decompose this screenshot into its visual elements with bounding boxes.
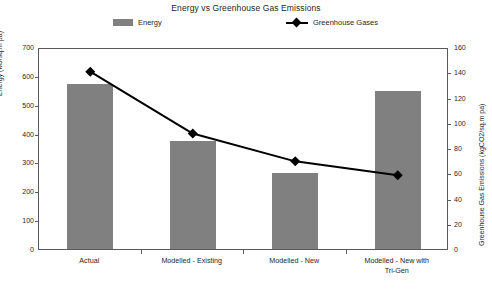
y-axis-right-tick-label: 40: [454, 196, 480, 203]
line-data-point-marker: [393, 170, 403, 180]
category-label-line: Actual: [38, 256, 141, 266]
legend-bar-swatch-icon: [113, 19, 133, 26]
line-data-point-marker: [188, 129, 198, 139]
category-label-line: Modelled - New: [243, 256, 346, 266]
y-axis-right-tick-label: 80: [454, 145, 480, 152]
y-axis-left-tick-label: 600: [8, 73, 34, 80]
x-axis-category-label: Modelled - Existing: [141, 256, 244, 266]
y-axis-left-tick-label: 300: [8, 159, 34, 166]
chart-legend: Energy Greenhouse Gases: [0, 18, 492, 30]
y-axis-right-tick-label: 20: [454, 221, 480, 228]
chart-container: Energy vs Greenhouse Gas Emissions Energ…: [0, 0, 492, 290]
category-label-line: Modelled - Existing: [141, 256, 244, 266]
legend-item-greenhouse-gases: Greenhouse Gases: [286, 18, 378, 27]
y-axis-right-tick-label: 0: [454, 246, 480, 253]
chart-title: Energy vs Greenhouse Gas Emissions: [0, 3, 492, 13]
line-data-point-marker: [290, 156, 300, 166]
x-axis-category-label: Modelled - New: [243, 256, 346, 266]
y-axis-left-tick-label: 0: [8, 246, 34, 253]
y-axis-left-tick-label: 500: [8, 102, 34, 109]
category-label-line: Tri-Gen: [346, 266, 449, 276]
legend-label-energy: Energy: [138, 18, 162, 27]
legend-line-marker-icon: [286, 18, 308, 27]
y-axis-right-tick-label: 160: [454, 44, 480, 51]
y-axis-right-tick-label: 100: [454, 120, 480, 127]
line-data-point-marker: [85, 67, 95, 77]
y-axis-left-tick-label: 400: [8, 131, 34, 138]
x-axis-category-label: Actual: [38, 256, 141, 266]
y-axis-left-title: Energy (MJ/sq.m pa): [0, 31, 3, 96]
y-axis-right-tick-label: 60: [454, 170, 480, 177]
y-axis-left-tick-label: 200: [8, 188, 34, 195]
y-axis-left-tick-label: 100: [8, 217, 34, 224]
y-axis-right-tick-label: 140: [454, 69, 480, 76]
y-axis-left-tick-label: 700: [8, 44, 34, 51]
plot-area: [38, 48, 448, 250]
legend-label-greenhouse-gases: Greenhouse Gases: [313, 18, 378, 27]
line-series-greenhouse-gases: [39, 49, 449, 251]
x-axis-category-label: Modelled - New withTri-Gen: [346, 256, 449, 275]
legend-item-energy: Energy: [113, 18, 162, 27]
category-label-line: Modelled - New with: [346, 256, 449, 266]
y-axis-right-tick-label: 120: [454, 95, 480, 102]
